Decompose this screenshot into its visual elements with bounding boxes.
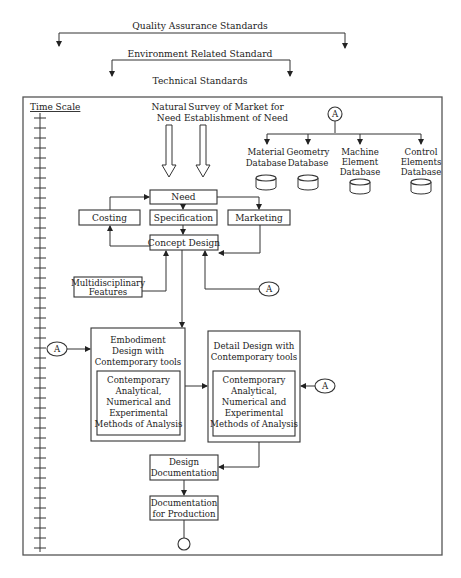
time-scale: Time Scale	[30, 102, 80, 552]
methods-line: Methods of Analysis	[210, 419, 298, 429]
db-label: Material	[247, 147, 284, 157]
methods-line: Analytical,	[114, 386, 161, 396]
detail-label-line1: Detail Design with	[214, 341, 295, 351]
market-survey-label-line2: Establishment of Need	[184, 113, 288, 123]
embodiment-label-line1: Embodiment	[110, 335, 166, 345]
machine-element-database: Machine Element Database	[340, 147, 381, 194]
material-database: Material Database	[246, 147, 287, 190]
db-label: Database	[340, 167, 381, 177]
multidisciplinary-label-line2: Features	[89, 287, 127, 297]
specification-node: Specification	[150, 210, 217, 225]
db-label: Geometry	[287, 147, 330, 157]
db-label: Elements	[401, 157, 442, 167]
connector-label: A	[331, 109, 339, 119]
marketing-node: Marketing	[228, 210, 290, 225]
design-doc-label-line2: Documentation	[151, 468, 218, 478]
embodiment-methods-box: Contemporary Analytical, Numerical and E…	[95, 371, 183, 435]
documentation-for-production-node: Documentation for Production	[150, 496, 218, 520]
embodiment-label-line2: Design with	[112, 346, 164, 356]
hollow-arrow-down-icon	[162, 125, 176, 177]
concept-design-label: Concept Design	[148, 238, 221, 248]
detail-design-node: Detail Design with Contemporary tools Co…	[208, 331, 300, 442]
connector-a-detail: A	[315, 379, 335, 393]
db-label: Database	[246, 158, 287, 168]
db-label: Machine	[341, 147, 379, 157]
methods-line: Contemporary	[107, 375, 170, 385]
methods-line: Experimental	[109, 408, 168, 418]
methods-line: Numerical and	[222, 397, 287, 407]
process-frame	[23, 97, 442, 555]
natural-need-input: Natural Need	[151, 102, 186, 177]
concept-design-node: Concept Design	[148, 235, 221, 250]
environment-related-standard: Environment Related Standard	[112, 48, 290, 76]
detail-label-line2: Contemporary tools	[211, 352, 298, 362]
need-node: Need	[150, 190, 217, 204]
design-doc-label-line1: Design	[169, 457, 200, 467]
methods-line: Analytical,	[230, 386, 277, 396]
end-terminal-circle-icon	[178, 538, 190, 550]
embodiment-label-line3: Contemporary tools	[95, 357, 182, 367]
specification-label: Specification	[154, 213, 213, 223]
connector-label: A	[53, 344, 61, 354]
connector-a-embodiment: A	[47, 342, 67, 356]
db-label: Element	[342, 157, 379, 167]
connector-a-concept: A	[259, 282, 279, 296]
db-label: Database	[288, 158, 329, 168]
methods-line: Contemporary	[223, 375, 286, 385]
multidisciplinary-features-node: Multidisciplinary Features	[71, 277, 145, 297]
natural-need-label-line2: Need	[157, 113, 182, 123]
marketing-label: Marketing	[235, 213, 283, 223]
doc-production-label-line1: Documentation	[151, 498, 218, 508]
design-documentation-node: Design Documentation	[150, 455, 218, 480]
hollow-arrow-down-icon	[196, 125, 210, 177]
costing-node: Costing	[79, 210, 140, 225]
doc-production-label-line2: for Production	[152, 509, 215, 519]
methods-line: Methods of Analysis	[95, 419, 183, 429]
connector-label: A	[265, 284, 273, 294]
connector-label: A	[321, 381, 329, 391]
embodiment-design-node: Embodiment Design with Contemporary tool…	[91, 328, 185, 441]
quality-assurance-standards: Quality Assurance Standards	[59, 20, 345, 48]
need-label: Need	[171, 192, 196, 202]
costing-label: Costing	[92, 213, 127, 223]
detail-methods-box: Contemporary Analytical, Numerical and E…	[210, 371, 298, 436]
design-process-diagram: Quality Assurance Standards Environment …	[0, 0, 461, 578]
db-label: Control	[405, 147, 438, 157]
geometry-database: Geometry Database	[287, 147, 330, 190]
connector-a-top: A	[328, 107, 342, 121]
db-label: Database	[401, 167, 442, 177]
quality-standards-label: Quality Assurance Standards	[132, 20, 268, 31]
natural-need-label-line1: Natural	[151, 102, 186, 112]
control-elements-database: Control Elements Database	[401, 147, 442, 194]
time-scale-label: Time Scale	[30, 102, 80, 112]
market-survey-label-line1: Survey of Market for	[188, 102, 284, 112]
methods-line: Experimental	[225, 408, 284, 418]
methods-line: Numerical and	[106, 397, 171, 407]
technical-standards-label: Technical Standards	[153, 75, 248, 86]
environment-standard-label: Environment Related Standard	[128, 48, 273, 59]
